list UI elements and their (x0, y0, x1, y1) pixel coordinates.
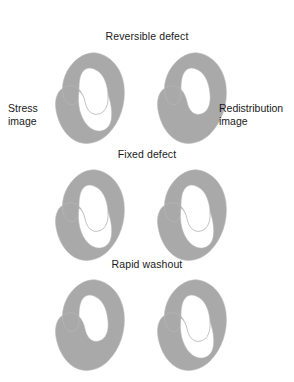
panel-redistribution-washout (146, 275, 242, 375)
stress-image-label-line2: image (8, 115, 38, 128)
myocardium-horseshoe-icon (146, 48, 242, 148)
redistribution-image-label: Redistribution image (219, 102, 283, 127)
panel-stress-washout (44, 275, 140, 375)
panel-redistribution-fixed (146, 165, 242, 265)
panel-redistribution-reversible (146, 48, 242, 148)
cardiac-perfusion-figure: Reversible defect Stress image Redistrib… (0, 0, 294, 382)
stress-image-label-line1: Stress (8, 102, 38, 115)
row-title-fixed-defect: Fixed defect (0, 148, 294, 160)
myocardium-horseshoe-icon (146, 165, 242, 265)
row-title-reversible-defect: Reversible defect (0, 30, 294, 42)
panel-stress-fixed (44, 165, 140, 265)
panel-stress-reversible (44, 48, 140, 148)
row-title-rapid-washout: Rapid washout (0, 258, 294, 270)
myocardium-horseshoe-icon (146, 275, 242, 375)
stress-image-label: Stress image (8, 102, 38, 127)
redistribution-image-label-line1: Redistribution (219, 102, 283, 115)
myocardium-horseshoe-icon (44, 275, 140, 375)
myocardium-horseshoe-icon (44, 165, 140, 265)
redistribution-image-label-line2: image (219, 115, 283, 128)
myocardium-horseshoe-icon (44, 48, 140, 148)
